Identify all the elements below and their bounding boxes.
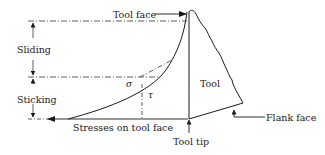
sticking-label: Sticking [17,95,57,105]
sigma-symbol: σ [126,80,132,89]
sliding-label: Sliding [17,45,51,55]
tool-outline [189,10,243,119]
tool-face-label: Tool face [113,10,156,20]
tool-tip-label: Tool tip [173,137,209,147]
tool-label: Tool [200,79,220,89]
normal-stress-curve [68,12,187,119]
stresses-on-tool-face-label: Stresses on tool face [73,123,173,133]
flank-face-label: Flank face [266,113,316,123]
tau-symbol: τ [148,91,153,100]
flank-face-pointer [234,110,265,117]
